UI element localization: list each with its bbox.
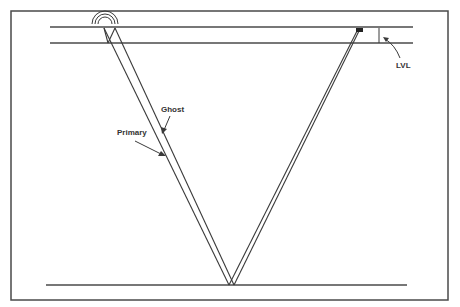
ghost-ray	[104, 28, 359, 285]
ray-path-diagram: Ghost Primary LVL	[0, 0, 460, 307]
lvl-arrow	[385, 39, 400, 58]
source-wave-icon	[92, 11, 118, 24]
diagram-frame	[11, 11, 448, 300]
primary-ray	[104, 28, 357, 285]
receiver-box	[356, 28, 363, 32]
primary-pointer-line	[135, 141, 161, 154]
primary-label: Primary	[117, 128, 147, 137]
ghost-pointer-line	[164, 116, 170, 130]
lvl-label: LVL	[396, 61, 411, 70]
ghost-label: Ghost	[161, 105, 184, 114]
